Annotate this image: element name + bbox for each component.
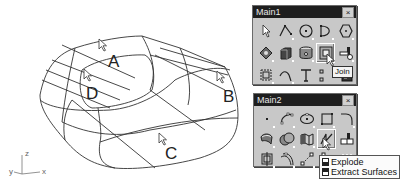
curve-button[interactable]: [276, 65, 295, 85]
offset-curve-icon: [279, 151, 295, 167]
fillet-curve-button[interactable]: [337, 109, 356, 129]
split-icon: [339, 131, 355, 147]
split-button[interactable]: [337, 129, 356, 149]
point-icon: [259, 111, 275, 127]
trim-icon: [338, 45, 354, 61]
right-click-icon: [322, 168, 329, 176]
mouse-cursor-icon: [326, 53, 336, 67]
main2-title: Main2: [257, 95, 282, 105]
pointer-cursor-icon: [158, 132, 168, 146]
pointer-cursor-icon: [83, 68, 93, 82]
pointer-cursor-icon: [98, 38, 108, 52]
boolean-union-button[interactable]: [277, 129, 296, 149]
left-click-icon: [322, 158, 329, 166]
text-button[interactable]: [296, 65, 315, 85]
pointer-cursor-icon: [216, 70, 226, 84]
polyline-button[interactable]: [276, 21, 295, 41]
group2-button[interactable]: [257, 149, 276, 169]
transform-icon: [258, 45, 274, 61]
select-pointer-button[interactable]: [256, 21, 275, 41]
circle-button[interactable]: [296, 21, 315, 41]
select-pointer-icon: [258, 23, 274, 39]
main1-titlebar[interactable]: Main1 ×: [253, 6, 356, 18]
line-points-icon: [299, 151, 315, 167]
tooltip-item-label: Explode: [331, 157, 364, 167]
tooltip-item-label: Extract Surfaces: [331, 167, 397, 177]
axis-label-y: y: [9, 168, 13, 176]
wireframe-solid: [0, 0, 248, 184]
group-icon: [258, 67, 274, 83]
ellipse-button[interactable]: [297, 109, 316, 129]
mouse-cursor-icon: [322, 137, 332, 151]
boolean-union-icon: [279, 131, 295, 147]
join-tooltip: Join: [332, 66, 353, 78]
main2-close-button[interactable]: ×: [342, 95, 354, 106]
rectangle-button[interactable]: [317, 109, 336, 129]
box-solid-icon: [278, 45, 294, 61]
text-icon: [298, 67, 314, 83]
main1-toolbar[interactable]: Main1 × Join: [252, 5, 357, 85]
fillet-curve-icon: [339, 111, 355, 127]
rectangle-icon: [319, 111, 335, 127]
cylinder-button[interactable]: [296, 43, 315, 63]
arc-icon: [318, 23, 334, 39]
group-icon: [259, 151, 275, 167]
surface-patch-icon: [259, 131, 275, 147]
polygon-button[interactable]: [336, 21, 355, 41]
surface-label-a: A: [108, 53, 119, 70]
arc-button[interactable]: [316, 21, 335, 41]
axis-label-z: z: [25, 150, 29, 158]
group-button[interactable]: [256, 65, 275, 85]
main2-titlebar[interactable]: Main2 ×: [254, 94, 356, 106]
circle-center-icon: [298, 23, 314, 39]
curve-icon: [278, 67, 294, 83]
perspective-viewport[interactable]: A B C D z y x: [0, 0, 248, 184]
sweep-button[interactable]: [297, 129, 316, 149]
surface-label-d: D: [86, 85, 98, 102]
trim-button[interactable]: [336, 43, 355, 63]
main1-close-button[interactable]: ×: [342, 7, 354, 18]
ellipse-icon: [299, 111, 315, 127]
polygon-icon: [338, 23, 354, 39]
control-point-curve-button[interactable]: [277, 109, 296, 129]
surface-label-b: B: [223, 88, 234, 105]
surface-label-c: C: [165, 145, 177, 162]
explode-tooltip: Explode Extract Surfaces: [319, 155, 400, 179]
sweep-icon: [299, 131, 315, 147]
cylinder-icon: [298, 45, 314, 61]
offset-curve-button[interactable]: [277, 149, 296, 169]
point-button[interactable]: [257, 109, 276, 129]
box-button[interactable]: [276, 43, 295, 63]
polyline-icon: [278, 23, 294, 39]
transform-button[interactable]: [256, 43, 275, 63]
tooltip-item-extract-surfaces: Extract Surfaces: [322, 167, 397, 177]
control-point-curve-icon: [279, 111, 295, 127]
surface-patch-button[interactable]: [257, 129, 276, 149]
line-points-button[interactable]: [297, 149, 316, 169]
tooltip-item-explode: Explode: [322, 157, 397, 167]
main1-title: Main1: [256, 7, 281, 17]
axis-label-x: x: [42, 168, 46, 176]
